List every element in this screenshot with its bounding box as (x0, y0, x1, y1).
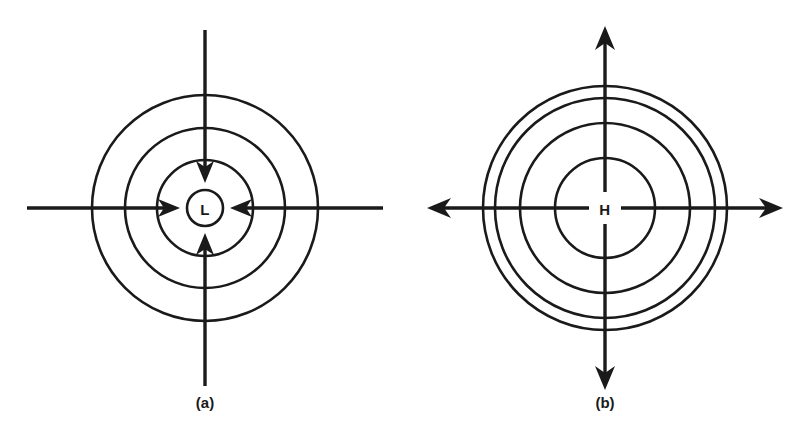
high-center-label: H (599, 201, 610, 218)
low-pressure-svg: L (a) (0, 0, 406, 428)
panel-low-pressure: L (a) (0, 0, 406, 428)
high-pressure-svg: H (b) (406, 0, 812, 428)
panel-a-caption: (a) (196, 394, 214, 411)
panel-b-caption: (b) (595, 394, 614, 411)
panel-high-pressure: H (b) (406, 0, 812, 428)
low-center-label: L (200, 201, 210, 218)
figure-root: L (a) H (b) (0, 0, 812, 428)
